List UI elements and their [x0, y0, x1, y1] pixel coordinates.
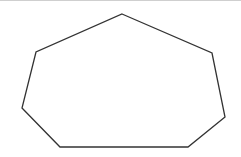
diagram-canvas — [0, 0, 241, 157]
heptagon-shape — [22, 14, 225, 147]
